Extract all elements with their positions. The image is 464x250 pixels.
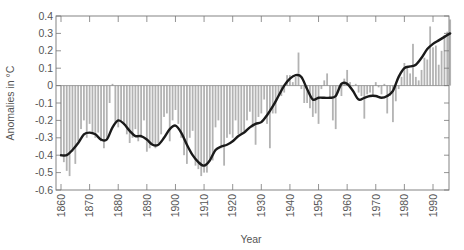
bar-1950 <box>318 86 320 124</box>
x-tick-label: 1900 <box>169 194 181 218</box>
bar-1943 <box>298 53 300 86</box>
bar-1864 <box>72 86 74 152</box>
bar-1895 <box>160 86 162 135</box>
bar-1913 <box>212 86 214 161</box>
bar-1921 <box>235 86 237 121</box>
bar-1995 <box>446 32 448 86</box>
bar-1893 <box>155 86 157 149</box>
bar-1874 <box>100 86 102 142</box>
bar-1987 <box>424 58 426 86</box>
bar-1978 <box>398 86 400 89</box>
bar-1906 <box>192 86 194 131</box>
bar-1930 <box>260 86 262 114</box>
y-tick-label: -0.1 <box>35 97 53 109</box>
x-tick-label: 1950 <box>312 194 324 218</box>
bar-1982 <box>409 73 411 85</box>
bar-1967 <box>366 86 368 95</box>
bar-1909 <box>200 86 202 176</box>
temperature-anomaly-chart: 0.40.30.20.10-0.1-0.2-0.3-0.4-0.5-0.6 18… <box>0 0 464 250</box>
x-tick-label: 1960 <box>341 194 353 218</box>
y-tick-label: 0 <box>47 79 53 91</box>
x-tick-label: 1980 <box>398 194 410 218</box>
bar-1890 <box>146 86 148 152</box>
bar-1908 <box>197 86 199 170</box>
bar-1875 <box>103 86 105 149</box>
bar-1952 <box>323 80 325 85</box>
bar-1917 <box>223 86 225 166</box>
bar-1933 <box>269 86 271 149</box>
bar-1877 <box>109 86 111 103</box>
bar-1941 <box>292 82 294 85</box>
y-axis-title: Anomalies in °C <box>4 65 16 140</box>
x-tick-label: 1910 <box>198 194 210 218</box>
bar-1886 <box>135 86 137 130</box>
bar-1916 <box>220 86 222 149</box>
bar-1863 <box>69 86 71 176</box>
bar-1979 <box>401 77 403 86</box>
bar-1966 <box>363 86 365 119</box>
bar-1914 <box>215 86 217 128</box>
bar-1931 <box>263 86 265 100</box>
bar-1923 <box>240 86 242 135</box>
bar-1873 <box>97 86 99 133</box>
y-tick-label: 0.4 <box>38 10 53 22</box>
bar-1891 <box>149 86 151 149</box>
bar-1924 <box>243 86 245 131</box>
y-tick-label: -0.5 <box>35 166 53 178</box>
bar-1867 <box>80 86 82 130</box>
bar-1920 <box>232 86 234 138</box>
bar-1965 <box>361 86 363 96</box>
bar-1993 <box>441 51 443 86</box>
bar-1994 <box>444 35 446 85</box>
bar-1972 <box>381 86 383 95</box>
bar-1991 <box>435 46 437 86</box>
y-tick-label: 0.1 <box>38 62 53 74</box>
bar-1885 <box>132 86 134 138</box>
bar-1974 <box>386 86 388 114</box>
bar-1945 <box>303 86 305 103</box>
bar-1992 <box>438 65 440 86</box>
y-tick-label: -0.3 <box>35 131 53 143</box>
x-tick-label: 1870 <box>83 194 95 218</box>
bar-1954 <box>329 86 331 98</box>
bar-1932 <box>266 86 268 124</box>
bar-1889 <box>143 86 145 121</box>
bar-1996 <box>449 19 451 85</box>
bar-1984 <box>415 77 417 86</box>
x-tick-label: 1990 <box>427 194 439 218</box>
bar-1872 <box>94 86 96 138</box>
bar-1882 <box>123 86 125 124</box>
y-tick-label: -0.4 <box>35 149 53 161</box>
bar-1887 <box>137 86 139 142</box>
bar-1926 <box>249 86 251 112</box>
x-tick-label: 1940 <box>284 194 296 218</box>
bar-1942 <box>295 77 297 86</box>
x-tick-label: 1880 <box>112 194 124 218</box>
bar-1944 <box>300 86 302 89</box>
y-tick-label: 0.3 <box>38 27 53 39</box>
bar-1981 <box>406 68 408 85</box>
bar-1896 <box>163 86 165 117</box>
x-tick-label: 1970 <box>370 194 382 218</box>
bars-group <box>60 19 451 176</box>
x-tick-label: 1930 <box>255 194 267 218</box>
bar-1894 <box>157 86 159 143</box>
bar-1901 <box>177 86 179 124</box>
bar-1948 <box>312 86 314 117</box>
bar-1870 <box>89 86 91 124</box>
bar-1922 <box>238 86 240 135</box>
bar-1904 <box>186 86 188 164</box>
bar-1862 <box>66 86 68 171</box>
bar-1897 <box>166 86 168 114</box>
bar-1907 <box>195 86 197 166</box>
x-tick-label: 1920 <box>226 194 238 218</box>
bar-1928 <box>255 86 257 145</box>
bar-1892 <box>152 86 154 145</box>
x-tick-label: 1890 <box>141 194 153 218</box>
bar-1919 <box>229 86 231 135</box>
bar-1986 <box>421 70 423 86</box>
x-axis-title: Year <box>240 233 262 245</box>
bar-1879 <box>114 86 116 124</box>
y-tick-label: -0.2 <box>35 114 53 126</box>
bar-1968 <box>369 86 371 93</box>
